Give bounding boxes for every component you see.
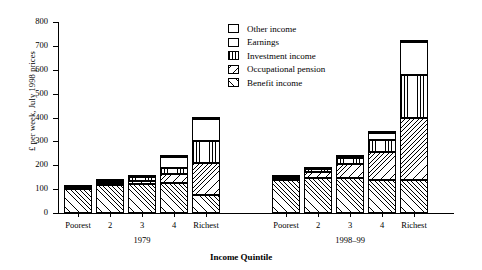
legend-label: Occupational pension [247,64,325,74]
y-tick [53,70,58,71]
bar-segment [400,42,428,75]
y-tick [53,213,58,214]
bar-segment [336,164,364,178]
bar-segment [160,155,188,157]
y-tick-label: 500 [14,89,48,98]
bar-segment [400,75,428,118]
x-category-label: Richest [176,220,236,230]
x-tick [318,213,319,217]
bar-segment [160,174,188,184]
bar-segment [192,163,220,195]
y-tick [53,141,58,142]
bar-segment [96,181,124,183]
chart-legend: Other incomeEarningsInvestment incomeOcc… [228,22,325,90]
legend-swatch-icon [228,24,239,33]
bar-segment [336,155,364,157]
bar-segment [368,131,396,133]
bar-segment [304,167,332,169]
bar-segment [400,118,428,180]
y-tick [53,46,58,47]
bar-segment [64,185,92,187]
bar-segment [64,189,92,213]
y-tick-label: 800 [14,17,48,26]
legend-swatch-icon [228,65,239,74]
x-tick [382,213,383,217]
legend-swatch-icon [228,38,239,47]
x-tick [174,213,175,217]
legend-label: Investment income [247,51,316,61]
x-tick [206,213,207,217]
y-tick [53,22,58,23]
bar-segment [128,175,156,177]
x-tick [350,213,351,217]
income-quintile-stacked-bar-chart: £ per week, July 1998 prices 01002003004… [0,0,482,270]
bar-segment [160,183,188,213]
y-tick-label: 200 [14,160,48,169]
y-tick [53,189,58,190]
bar-segment [192,195,220,213]
y-tick-label: 700 [14,41,48,50]
y-tick [53,118,58,119]
y-tick-label: 100 [14,184,48,193]
bar-segment [128,177,156,181]
bar-segment [96,185,124,213]
bar-segment [368,133,396,140]
bar-segment [304,178,332,213]
legend-item: Investment income [228,49,325,63]
bar-segment [368,140,396,152]
x-tick [414,213,415,217]
bar-segment [400,180,428,213]
y-tick-label: 600 [14,65,48,74]
bar-segment [400,40,428,42]
y-tick-label: 0 [14,208,48,217]
bar-segment [192,117,220,119]
y-tick [53,165,58,166]
bar-segment [336,178,364,213]
x-axis-title: Income Quintile [0,252,482,262]
x-category-label: Richest [384,220,444,230]
bar-segment [160,157,188,168]
x-group-label: 1979 [102,235,182,245]
bar-segment [368,152,396,179]
legend-item: Other income [228,22,325,36]
y-tick-label: 300 [14,136,48,145]
legend-item: Benefit income [228,76,325,90]
bar-segment [128,181,156,185]
bar-segment [160,168,188,174]
legend-swatch-icon [228,51,239,60]
y-axis-line [58,22,59,213]
bar-segment [272,177,300,179]
bar-segment [272,180,300,213]
legend-swatch-icon [228,78,239,87]
bar-segment [336,158,364,164]
x-tick [142,213,143,217]
y-tick [53,94,58,95]
y-tick-label: 400 [14,113,48,122]
bar-segment [128,184,156,213]
bar-segment [368,180,396,213]
legend-label: Benefit income [247,78,302,88]
bar-segment [272,175,300,177]
legend-item: Earnings [228,36,325,50]
bar-segment [304,172,332,177]
x-group-label: 1998–99 [310,235,390,245]
bar-segment [192,119,220,142]
bar-segment [192,141,220,162]
x-tick [78,213,79,217]
legend-label: Other income [247,24,296,34]
bar-segment [96,179,124,181]
bar-segment [304,169,332,172]
legend-item: Occupational pension [228,63,325,77]
x-axis-line [58,213,454,214]
x-tick [110,213,111,217]
x-tick [286,213,287,217]
legend-label: Earnings [247,37,279,47]
